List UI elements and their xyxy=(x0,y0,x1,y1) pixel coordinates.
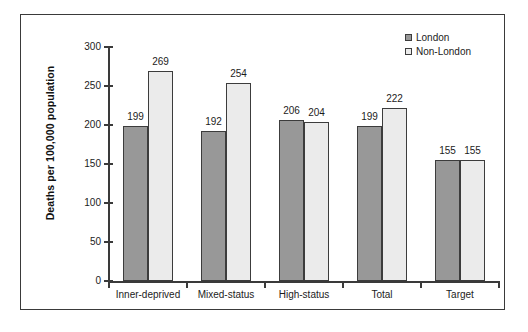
x-axis-tick xyxy=(498,281,500,288)
y-axis-tick-label: 0 xyxy=(69,276,101,286)
bar-non-london-mixed-status[interactable] xyxy=(226,83,251,281)
bar-value-label: 222 xyxy=(376,94,413,104)
x-axis-tick xyxy=(342,281,344,288)
bar-non-london-inner-deprived[interactable] xyxy=(148,71,173,281)
x-axis-tick xyxy=(420,281,422,288)
y-axis-tick-labels: 050100150200250300 xyxy=(65,15,101,311)
x-axis-line xyxy=(108,281,500,283)
legend-item-non-london[interactable]: Non-London xyxy=(405,45,495,58)
y-axis-tick-label: 300 xyxy=(69,42,101,52)
x-axis-label-high-status: High-status xyxy=(265,289,343,300)
bar-value-label: 155 xyxy=(454,146,491,156)
y-axis-tick-label: 250 xyxy=(69,81,101,91)
x-axis-tick xyxy=(108,281,110,288)
bar-london-target[interactable] xyxy=(435,160,460,281)
x-axis-label-inner-deprived: Inner-deprived xyxy=(109,289,187,300)
chart-legend: LondonNon-London xyxy=(405,31,495,59)
bar-london-high-status[interactable] xyxy=(279,120,304,281)
x-axis-label-mixed-status: Mixed-status xyxy=(187,289,265,300)
bar-non-london-total[interactable] xyxy=(382,108,407,281)
x-axis-tick xyxy=(264,281,266,288)
bar-value-label: 199 xyxy=(117,112,154,122)
legend-item-london[interactable]: London xyxy=(405,31,495,44)
bar-value-label: 254 xyxy=(220,69,257,79)
bar-london-mixed-status[interactable] xyxy=(201,131,226,281)
y-axis-tick-label: 50 xyxy=(69,237,101,247)
y-axis-tick-label: 200 xyxy=(69,120,101,130)
legend-item-label: Non-London xyxy=(416,46,471,57)
chart-frame: Deaths per 100,000 population 0501001502… xyxy=(20,14,505,310)
bar-value-label: 192 xyxy=(195,117,232,127)
bar-chart-figure: Deaths per 100,000 population 0501001502… xyxy=(0,0,528,332)
bar-non-london-high-status[interactable] xyxy=(304,122,329,281)
bar-value-label: 199 xyxy=(351,112,388,122)
legend-swatch-icon xyxy=(405,48,412,55)
bar-non-london-target[interactable] xyxy=(460,160,485,281)
plot-area xyxy=(109,47,499,281)
bar-london-total[interactable] xyxy=(357,126,382,281)
y-axis-tick-label: 150 xyxy=(69,159,101,169)
x-axis-label-target: Target xyxy=(421,289,499,300)
y-axis-title: Deaths per 100,000 population xyxy=(44,63,56,223)
bar-london-inner-deprived[interactable] xyxy=(123,126,148,281)
legend-swatch-icon xyxy=(405,34,412,41)
bar-value-label: 269 xyxy=(142,57,179,67)
x-axis-label-total: Total xyxy=(343,289,421,300)
legend-item-label: London xyxy=(416,32,449,43)
x-axis-tick xyxy=(186,281,188,288)
bar-value-label: 204 xyxy=(298,108,335,118)
y-axis-tick-label: 100 xyxy=(69,198,101,208)
